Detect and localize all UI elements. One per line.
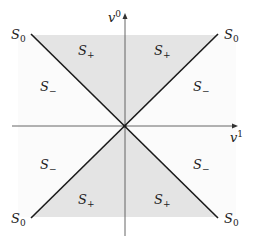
s-minus-label-lower-right: S− bbox=[193, 158, 209, 174]
s-plus-label-lower-right: S+ bbox=[154, 193, 170, 209]
vertical-axis-arrow-icon bbox=[123, 13, 128, 19]
s-zero-label-bottom-left: S0 bbox=[11, 212, 26, 228]
s-zero-label-top-right: S0 bbox=[224, 28, 239, 44]
origin-point bbox=[123, 124, 126, 127]
light-cone-diagram bbox=[0, 0, 254, 243]
s-plus-label-upper-right: S+ bbox=[154, 44, 170, 60]
s-plus-label-upper-left: S+ bbox=[78, 44, 94, 60]
s-minus-label-upper-right: S− bbox=[193, 80, 209, 96]
s-plus-label-lower-left: S+ bbox=[78, 193, 94, 209]
vertical-axis-label: v0 bbox=[108, 10, 121, 24]
horizontal-axis-label: v1 bbox=[230, 130, 243, 144]
s-zero-label-bottom-right: S0 bbox=[224, 212, 239, 228]
s-zero-label-top-left: S0 bbox=[11, 28, 26, 44]
s-minus-label-upper-left: S− bbox=[40, 80, 56, 96]
s-minus-label-lower-left: S− bbox=[40, 158, 56, 174]
